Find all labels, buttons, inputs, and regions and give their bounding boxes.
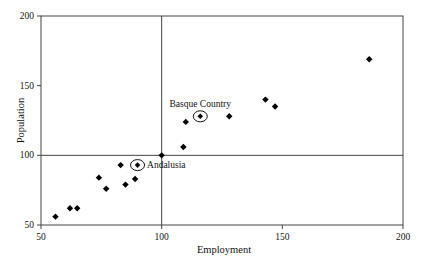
data-point bbox=[262, 96, 268, 102]
x-tick-label: 150 bbox=[275, 232, 290, 242]
x-tick-label: 100 bbox=[155, 232, 170, 242]
data-point bbox=[67, 205, 73, 211]
plot-frame bbox=[41, 16, 403, 225]
data-point bbox=[122, 181, 128, 187]
y-tick-label: 50 bbox=[25, 220, 35, 230]
annotated-data-point bbox=[135, 162, 141, 168]
data-point bbox=[158, 152, 164, 158]
y-axis-title: Population bbox=[15, 97, 26, 143]
data-point bbox=[132, 176, 138, 182]
x-axis-title: Employment bbox=[197, 244, 251, 255]
data-point bbox=[183, 119, 189, 125]
y-tick-label: 150 bbox=[20, 81, 35, 91]
y-tick-label: 100 bbox=[20, 150, 35, 160]
data-point bbox=[74, 205, 80, 211]
chart-canvas: 5010015020050100150200EmploymentPopulati… bbox=[0, 0, 428, 268]
annotation-label: Basque Country bbox=[170, 99, 232, 109]
annotated-data-point bbox=[197, 114, 203, 120]
x-tick-label: 200 bbox=[396, 232, 411, 242]
data-point bbox=[96, 174, 102, 180]
x-tick-label: 50 bbox=[36, 232, 46, 242]
data-point bbox=[366, 56, 372, 62]
data-point bbox=[117, 162, 123, 168]
data-point bbox=[272, 103, 278, 109]
data-point bbox=[180, 144, 186, 150]
data-point bbox=[226, 113, 232, 119]
y-tick-label: 200 bbox=[20, 11, 35, 21]
scatter-chart-figure: 5010015020050100150200EmploymentPopulati… bbox=[0, 0, 428, 268]
annotation-label: Andalusia bbox=[147, 160, 186, 170]
data-point bbox=[103, 186, 109, 192]
data-point bbox=[52, 213, 58, 219]
